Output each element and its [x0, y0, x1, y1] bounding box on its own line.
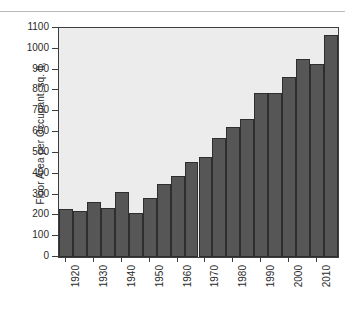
bar	[240, 119, 254, 257]
y-axis-tick-label: 900	[32, 64, 49, 74]
bar	[282, 77, 296, 257]
x-axis-tick-label: 1980	[237, 265, 248, 305]
x-axis-tick-label: 1930	[98, 265, 109, 305]
bar	[296, 59, 310, 257]
y-axis-tick-label: 600	[32, 126, 49, 136]
x-axis-tick-label: 1950	[154, 265, 165, 305]
bar	[324, 35, 338, 257]
top-divider-rule	[0, 11, 345, 12]
y-axis-tick-label: 800	[32, 84, 49, 94]
y-axis-tick-label: 100	[32, 230, 49, 240]
x-axis-tick-label: 2010	[321, 265, 332, 305]
bar-series	[59, 28, 338, 257]
bar	[129, 213, 143, 257]
y-axis-tick-label: 500	[32, 147, 49, 157]
x-axis-tick	[232, 257, 233, 262]
bar	[185, 162, 199, 257]
y-axis-tick-label: 200	[32, 209, 49, 219]
bar	[310, 64, 324, 257]
x-axis-tick	[93, 257, 94, 262]
bar	[212, 138, 226, 257]
y-axis-tick-label: 400	[32, 168, 49, 178]
bar	[226, 127, 240, 257]
bar	[101, 208, 115, 257]
x-axis-tick	[121, 257, 122, 262]
bar	[157, 184, 171, 257]
x-axis-tick-label: 1970	[209, 265, 220, 305]
x-axis-tick-label: 1940	[126, 265, 137, 305]
bar	[268, 93, 282, 257]
x-axis-tick-label: 1920	[70, 265, 81, 305]
bar	[143, 198, 157, 257]
y-axis-tick-label: 1000	[27, 43, 49, 53]
x-axis-tick	[260, 257, 261, 262]
bar	[199, 157, 213, 257]
x-axis-tick	[65, 257, 66, 262]
bar	[171, 176, 185, 257]
x-axis-tick-label: 1990	[265, 265, 276, 305]
bar	[59, 209, 73, 257]
x-axis-tick	[316, 257, 317, 262]
x-axis-tick	[204, 257, 205, 262]
y-axis-tick-label: 0	[43, 251, 49, 261]
x-axis-tick	[177, 257, 178, 262]
y-axis-tick-label: 700	[32, 105, 49, 115]
bar	[73, 211, 87, 257]
y-axis-tick-label: 1100	[27, 22, 49, 32]
x-axis-tick	[288, 257, 289, 262]
plot-area	[58, 27, 339, 258]
bar	[87, 202, 101, 257]
x-axis-tick-label: 2000	[293, 265, 304, 305]
bar	[254, 93, 268, 257]
x-axis-tick	[149, 257, 150, 262]
y-axis-tick-label: 300	[32, 189, 49, 199]
chart-figure: Floor Area per Occupant, sq. ft, 0100200…	[0, 0, 355, 310]
x-axis-tick-label: 1960	[182, 265, 193, 305]
bar	[115, 192, 129, 257]
